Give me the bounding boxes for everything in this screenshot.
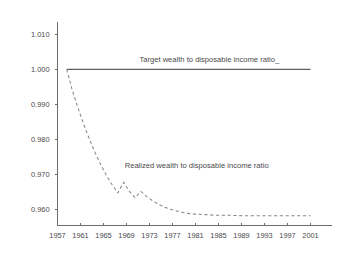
y-tick-label: 1.000: [31, 65, 50, 74]
y-tick-label: 0.960: [31, 205, 50, 214]
x-tick-label: 1965: [95, 231, 111, 240]
y-tick-label: 1.010: [31, 30, 50, 39]
x-tick-label: 1973: [141, 231, 157, 240]
x-tick-label: 1961: [72, 231, 88, 240]
x-tick-label: 1997: [279, 231, 295, 240]
x-axis-tick-labels: 1957196119651969197319771981198519891993…: [49, 231, 318, 240]
chart-annotations: Target wealth to disposable income ratio…: [125, 55, 280, 170]
x-tick-label: 1969: [118, 231, 134, 240]
realized-wealth-line: [67, 69, 311, 215]
realized-series-annotation: Realized wealth to disposable income rat…: [125, 161, 269, 170]
x-tick-label: 1981: [187, 231, 203, 240]
y-tick-label: 0.980: [31, 135, 50, 144]
chart-container: 0.9600.9700.9800.9901.0001.010 195719611…: [0, 0, 338, 257]
x-tick-label: 1985: [210, 231, 226, 240]
x-tick-label: 2001: [302, 231, 318, 240]
x-tick-label: 1989: [233, 231, 249, 240]
y-tick-label: 0.990: [31, 100, 50, 109]
x-tick-label: 1957: [49, 231, 65, 240]
y-tick-label: 0.970: [31, 170, 50, 179]
x-tick-label: 1993: [256, 231, 272, 240]
target-series-annotation: Target wealth to disposable income ratio…: [139, 55, 279, 64]
line-chart: 0.9600.9700.9800.9901.0001.010 195719611…: [0, 0, 338, 257]
y-axis-tick-labels: 0.9600.9700.9800.9901.0001.010: [31, 30, 50, 214]
x-tick-label: 1977: [164, 231, 180, 240]
